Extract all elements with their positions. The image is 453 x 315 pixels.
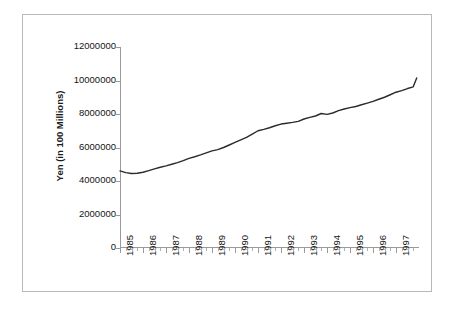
y-tick-label: 12000000: [74, 41, 116, 51]
y-tick-label: 8000000: [79, 108, 116, 118]
x-axis-minor-tick: [379, 248, 380, 251]
x-axis-tick: [396, 248, 397, 253]
x-tick-label: 1985: [124, 235, 135, 256]
x-axis-minor-tick: [252, 248, 253, 251]
y-tick-label: 10000000: [74, 75, 116, 85]
x-tick-label: 1996: [377, 235, 388, 256]
x-axis-minor-tick: [339, 248, 340, 251]
x-axis-minor-tick: [195, 248, 196, 251]
x-axis-minor-tick: [356, 248, 357, 251]
x-axis-minor-tick: [229, 248, 230, 251]
y-axis-tick: [116, 215, 120, 216]
x-axis-tick: [327, 248, 328, 253]
x-tick-label: 1989: [216, 235, 227, 256]
x-axis-tick: [189, 248, 190, 253]
x-tick-label: 1992: [285, 235, 296, 256]
x-axis-minor-tick: [293, 248, 294, 251]
x-axis-minor-tick: [413, 248, 414, 251]
x-axis-tick: [166, 248, 167, 253]
x-axis-tick: [350, 248, 351, 253]
data-line-series: [120, 47, 419, 248]
x-tick-label: 1990: [239, 235, 250, 256]
x-axis-minor-tick: [247, 248, 248, 251]
x-axis-minor-tick: [126, 248, 127, 251]
x-axis-tick: [281, 248, 282, 253]
x-axis-tick: [212, 248, 213, 253]
x-axis-tick: [235, 248, 236, 253]
y-axis-tick: [116, 148, 120, 149]
x-tick-label: 1993: [308, 235, 319, 256]
x-axis-tick: [143, 248, 144, 253]
x-axis-minor-tick: [183, 248, 184, 251]
x-axis-minor-tick: [344, 248, 345, 251]
x-tick-label: 1988: [193, 235, 204, 256]
x-axis-minor-tick: [390, 248, 391, 251]
y-tick-label: 6000000: [79, 142, 116, 152]
x-tick-label: 1994: [331, 235, 342, 256]
x-axis-minor-tick: [218, 248, 219, 251]
x-axis-minor-tick: [402, 248, 403, 251]
x-axis-minor-tick: [160, 248, 161, 251]
x-tick-label: 1995: [354, 235, 365, 256]
x-axis-minor-tick: [316, 248, 317, 251]
x-axis-minor-tick: [149, 248, 150, 251]
x-axis-minor-tick: [385, 248, 386, 251]
x-axis-minor-tick: [172, 248, 173, 251]
x-axis-minor-tick: [362, 248, 363, 251]
y-axis-tick: [116, 81, 120, 82]
x-axis-minor-tick: [367, 248, 368, 251]
y-axis-tick: [116, 114, 120, 115]
x-axis-minor-tick: [333, 248, 334, 251]
x-axis-minor-tick: [206, 248, 207, 251]
y-axis-tick: [116, 181, 120, 182]
x-axis-minor-tick: [224, 248, 225, 251]
x-axis-minor-tick: [408, 248, 409, 251]
line-path: [120, 78, 417, 173]
x-axis-minor-tick: [287, 248, 288, 251]
x-axis-tick: [120, 248, 121, 253]
x-axis-minor-tick: [275, 248, 276, 251]
x-axis-minor-tick: [298, 248, 299, 251]
x-axis-minor-tick: [155, 248, 156, 251]
y-tick-label-column: 0200000040000006000000800000010000000120…: [58, 0, 116, 315]
x-tick-label: 1987: [170, 235, 181, 256]
x-axis-tick: [258, 248, 259, 253]
y-tick-label: 2000000: [79, 209, 116, 219]
x-axis-minor-tick: [178, 248, 179, 251]
x-axis-minor-tick: [132, 248, 133, 251]
x-axis-tick: [304, 248, 305, 253]
y-tick-label: 4000000: [79, 175, 116, 185]
x-axis-minor-tick: [321, 248, 322, 251]
x-axis-tick: [373, 248, 374, 253]
x-axis-minor-tick: [310, 248, 311, 251]
x-axis-minor-tick: [201, 248, 202, 251]
x-tick-label: 1986: [147, 235, 158, 256]
x-tick-label: 1991: [262, 235, 273, 256]
x-axis-minor-tick: [270, 248, 271, 251]
x-axis-minor-tick: [241, 248, 242, 251]
x-tick-label: 1997: [400, 235, 411, 256]
x-axis-minor-tick: [264, 248, 265, 251]
y-axis-tick: [116, 47, 120, 48]
x-axis-minor-tick: [137, 248, 138, 251]
y-tick-label: 0: [111, 242, 116, 252]
